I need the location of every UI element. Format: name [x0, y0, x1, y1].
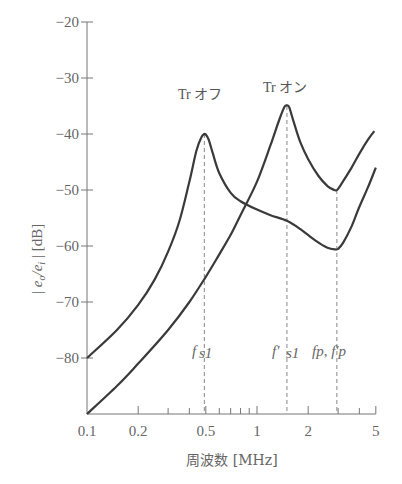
- x-axis-title: 周波数 [MHz]: [186, 452, 277, 468]
- y-tick-label: −60: [56, 238, 79, 254]
- y-tick-label: −50: [56, 182, 79, 198]
- frequency-response-chart: −20−30−40−50−60−70−800.10.20.5125 Tr オフ …: [0, 0, 402, 484]
- svg-text:s1: s1: [199, 345, 212, 361]
- y-tick-label: −20: [56, 14, 79, 30]
- curve-tr-on: [87, 105, 374, 414]
- curves: [87, 105, 376, 414]
- resonance-markers: [204, 106, 337, 414]
- x-tick-label: 0.1: [78, 423, 97, 439]
- y-tick-label: −40: [56, 126, 79, 142]
- y-axis-title: | eo/ei | [dB]: [29, 224, 47, 295]
- x-tick-label: 0.2: [129, 423, 148, 439]
- curve-tr-off: [87, 134, 376, 358]
- axes: −20−30−40−50−60−70−800.10.20.5125: [56, 14, 380, 439]
- marker-label-fs1: f s1: [192, 343, 212, 361]
- y-tick-label: −80: [56, 350, 79, 366]
- x-tick-label: 1: [253, 423, 261, 439]
- marker-label-fp: fp, f′p: [312, 343, 347, 359]
- x-tick-label: 0.5: [196, 423, 215, 439]
- svg-text:| eo/ei | [dB]: | eo/ei | [dB]: [29, 224, 47, 295]
- svg-text:f: f: [192, 343, 198, 359]
- marker-label-fprime-s1: f′ s1: [272, 343, 299, 361]
- svg-text:s1: s1: [286, 345, 299, 361]
- curve-label-tr-off: Tr オフ: [178, 87, 222, 102]
- x-tick-label: 2: [304, 423, 312, 439]
- svg-text:f′: f′: [272, 343, 280, 359]
- curve-label-tr-on: Tr オン: [263, 80, 307, 95]
- y-tick-label: −30: [56, 70, 79, 86]
- y-tick-label: −70: [56, 294, 79, 310]
- x-tick-label: 5: [372, 423, 380, 439]
